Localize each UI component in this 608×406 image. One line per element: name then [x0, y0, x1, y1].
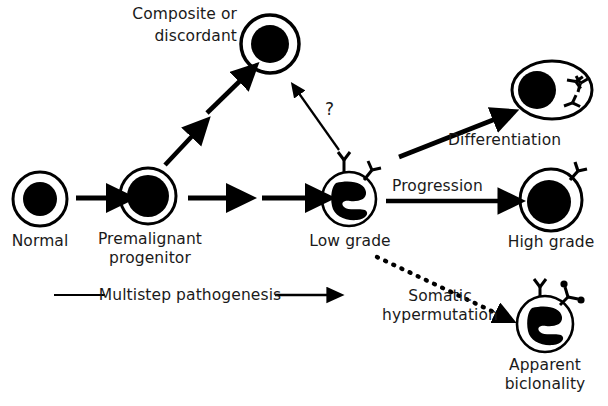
cell-apparent-biclonality: [517, 279, 585, 352]
marker-y-plain: [534, 279, 546, 297]
arrow-label-somatic-line1: Somatic: [408, 287, 472, 306]
cell-label-low-grade: Low grade: [309, 232, 390, 250]
marker-y-plain: [338, 152, 350, 172]
marker-y-dotted-tips: [560, 280, 585, 305]
cell-label-premalignant-line1: Premalignant: [98, 230, 202, 249]
multistep-pathogenesis-label: Multistep pathogenesis: [99, 286, 281, 304]
cell-high-grade: [520, 162, 587, 231]
cell-premalignant-progenitor: [120, 168, 176, 224]
question-mark-annotation: ?: [325, 100, 334, 118]
cell-label-premalignant-line2: progenitor: [109, 249, 191, 268]
cell-composite-discordant: [241, 15, 299, 73]
marker-y-plain: [570, 162, 587, 180]
cell-label-high-grade: High grade: [508, 233, 595, 251]
arrow-label-differentiation: Differentiation: [448, 131, 561, 149]
cell-label-biclonality-line2: biclonality: [505, 375, 586, 394]
diagram-vector-layer: [0, 0, 608, 406]
cell-label-composite-line2: discordant: [154, 27, 237, 46]
cell-label-normal: Normal: [12, 232, 69, 250]
arrow-premalignant-to-composite-lower: [165, 133, 195, 165]
cell-differentiated-plasma: [512, 61, 592, 119]
diagram-canvas: Normal Premalignant progenitor Composite…: [0, 0, 608, 406]
arrow-label-somatic-line2: hypermutation: [382, 306, 498, 325]
cell-label-composite-line1: Composite or: [132, 5, 237, 24]
cell-low-grade: [322, 152, 381, 226]
marker-y-plain-tilted: [364, 161, 381, 180]
cell-normal: [13, 172, 67, 226]
arrow-label-progression: Progression: [392, 177, 483, 195]
cell-label-biclonality-line1: Apparent: [509, 356, 581, 375]
arrow-premalignant-to-composite-upper: [207, 78, 243, 113]
